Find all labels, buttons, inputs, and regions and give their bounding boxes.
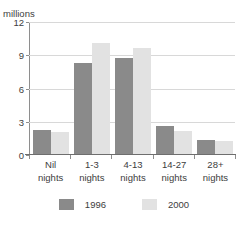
- x-axis-label-line: 28+: [195, 158, 236, 171]
- bar-1996-14-27-nights: [156, 126, 174, 154]
- bar-2000-nil-nights: [51, 132, 69, 154]
- legend-swatch-1996: [59, 199, 74, 210]
- y-tick-label: 0: [19, 150, 24, 161]
- bar-group: [71, 22, 112, 154]
- y-tick-mark: [26, 89, 29, 90]
- y-tick-label: 12: [13, 17, 24, 28]
- bar-1996-4-13-nights: [115, 58, 133, 154]
- x-axis-label-line: nights: [154, 171, 195, 184]
- x-axis-label-line: 4-13: [112, 158, 153, 171]
- bar-1996-nil-nights: [33, 130, 51, 154]
- legend-entry-1996: 1996: [59, 199, 106, 210]
- x-axis-label-line: nights: [71, 171, 112, 184]
- chart-legend: 19962000: [0, 199, 248, 210]
- legend-entry-2000: 2000: [142, 199, 189, 210]
- chart-title-cropped: [28, 0, 238, 2]
- x-axis-label-line: nights: [30, 171, 71, 184]
- x-axis-label-line: Nil: [30, 158, 71, 171]
- bar-group: [153, 22, 194, 154]
- y-tick-mark: [26, 22, 29, 23]
- bar-group: [112, 22, 153, 154]
- x-axis-label-line: nights: [112, 171, 153, 184]
- bar-1996-1-3-nights: [74, 63, 92, 154]
- y-tick-label: 6: [19, 83, 24, 94]
- legend-swatch-2000: [142, 199, 157, 210]
- bar-group: [30, 22, 71, 154]
- bar-2000-1-3-nights: [92, 43, 110, 154]
- bar-1996-28+-nights: [197, 140, 215, 154]
- bar-2000-4-13-nights: [133, 48, 151, 154]
- y-tick-mark: [26, 55, 29, 56]
- x-axis-labels: Nilnights1-3nights4-13nights14-27nights2…: [30, 158, 236, 184]
- bar-chart: millions 036912 Nilnights1-3nights4-13ni…: [0, 0, 248, 231]
- bars-layer: [30, 22, 235, 154]
- x-axis-label-28+-nights: 28+nights: [195, 158, 236, 184]
- x-axis-label-line: nights: [195, 171, 236, 184]
- x-axis-label-line: 14-27: [154, 158, 195, 171]
- y-tick-mark: [26, 122, 29, 123]
- x-axis-label-line: 1-3: [71, 158, 112, 171]
- legend-label-1996: 1996: [85, 199, 106, 210]
- y-tick-label: 9: [19, 50, 24, 61]
- bar-2000-14-27-nights: [174, 131, 192, 154]
- legend-label-2000: 2000: [168, 199, 189, 210]
- x-axis-label-14-27-nights: 14-27nights: [154, 158, 195, 184]
- x-axis-label-nil-nights: Nilnights: [30, 158, 71, 184]
- bar-group: [194, 22, 235, 154]
- x-axis-label-1-3-nights: 1-3nights: [71, 158, 112, 184]
- y-tick-label: 3: [19, 116, 24, 127]
- plot-area: 036912: [29, 22, 235, 155]
- x-axis-label-4-13-nights: 4-13nights: [112, 158, 153, 184]
- bar-2000-28+-nights: [215, 141, 233, 154]
